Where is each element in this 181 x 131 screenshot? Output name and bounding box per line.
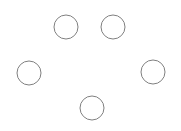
node-top-right bbox=[101, 15, 125, 39]
node-top-left bbox=[54, 15, 78, 39]
node-right bbox=[141, 60, 165, 84]
node-bottom bbox=[80, 96, 104, 120]
diagram-canvas bbox=[0, 0, 181, 131]
node-left bbox=[17, 61, 41, 85]
